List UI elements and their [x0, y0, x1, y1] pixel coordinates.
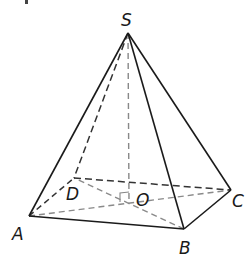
- label-B: B: [179, 238, 191, 258]
- label-O: O: [136, 190, 149, 210]
- label-D: D: [66, 184, 79, 204]
- edge-BC: [184, 190, 231, 229]
- edge-SO: [128, 33, 129, 202]
- corner-artifact: [25, 0, 28, 4]
- right-angle-marker: [120, 192, 129, 202]
- pyramid-diagram: S A B C D O: [0, 0, 250, 258]
- label-C: C: [232, 191, 244, 211]
- label-A: A: [11, 224, 24, 244]
- label-S: S: [121, 10, 132, 30]
- edge-SD: [74, 33, 128, 178]
- edge-SC: [128, 33, 231, 190]
- edge-AC: [29, 190, 231, 216]
